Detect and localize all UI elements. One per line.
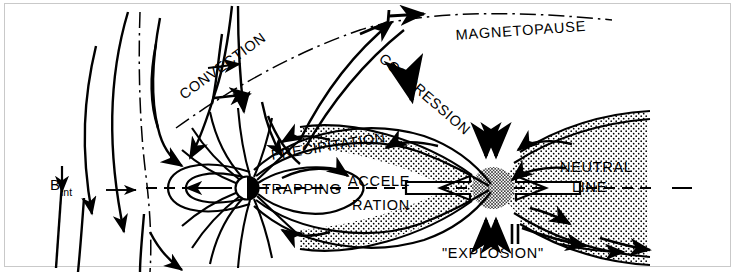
label-compression: COMPRESSION [376, 50, 474, 138]
b-int-subscript: int [61, 186, 72, 198]
b-int-symbol: B [50, 176, 60, 193]
label-convection: CONVECTION [176, 29, 268, 102]
magnetosphere-diagram: B int CONVECTION MAGNETOPAUSE COMPRESSIO… [0, 0, 739, 278]
figure-root: B int CONVECTION MAGNETOPAUSE COMPRESSIO… [0, 0, 739, 278]
label-explosion: "EXPLOSION" [442, 245, 544, 261]
label-magnetopause: MAGNETOPAUSE [455, 18, 587, 43]
label-acceleration-line2: RATION [352, 197, 410, 213]
label-acceleration-line1: ACCELE- [348, 173, 416, 189]
label-trapping: TRAPPING [262, 181, 342, 197]
label-neutral-line1: NEUTRAL [560, 159, 633, 175]
earth-dipole-body [236, 177, 259, 200]
label-neutral-line2: LINE [572, 179, 607, 195]
